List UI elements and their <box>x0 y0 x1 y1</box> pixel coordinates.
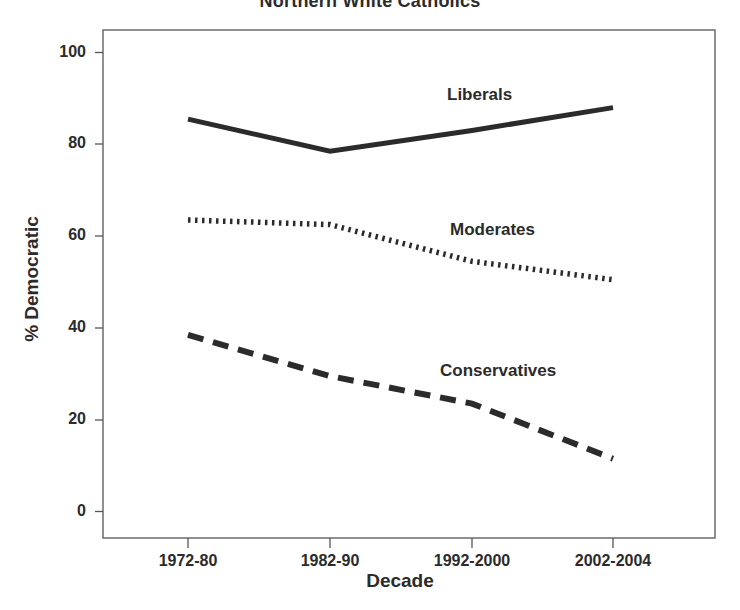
chart-figure: Northern White Catholics 0 20 40 60 <box>0 0 740 610</box>
series-label-moderates: Moderates <box>450 220 535 240</box>
y-tick-label-100: 100 <box>26 43 86 61</box>
y-tick-label-80: 80 <box>26 134 86 152</box>
series-line-moderates <box>188 220 613 280</box>
y-axis-title: % Democratic <box>21 199 43 359</box>
x-tick-label-1972-80: 1972-80 <box>118 552 258 570</box>
x-axis-ticks <box>188 538 613 548</box>
y-tick-label-20: 20 <box>26 410 86 428</box>
y-axis-ticks <box>95 53 103 512</box>
series-label-liberals: Liberals <box>447 85 512 105</box>
x-tick-label-1992-2000: 1992-2000 <box>402 552 542 570</box>
series-line-liberals <box>188 108 613 152</box>
series-line-conservatives <box>188 335 613 459</box>
series-label-conservatives: Conservatives <box>440 361 556 381</box>
y-tick-label-0: 0 <box>26 502 86 520</box>
x-axis-title: Decade <box>190 570 610 592</box>
x-tick-label-2002-2004: 2002-2004 <box>543 552 683 570</box>
x-tick-label-1982-90: 1982-90 <box>260 552 400 570</box>
plot-frame <box>103 30 715 538</box>
line-chart-plot <box>0 0 740 610</box>
